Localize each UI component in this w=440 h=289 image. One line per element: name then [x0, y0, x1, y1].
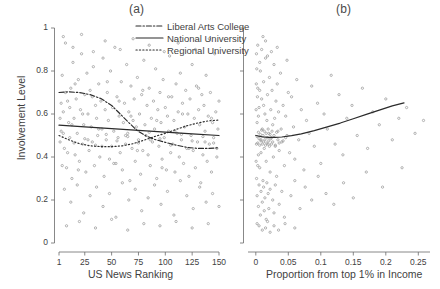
- scatter-point: [218, 205, 220, 207]
- scatter-point: [94, 104, 96, 106]
- scatter-point: [157, 109, 159, 111]
- scatter-point: [259, 144, 261, 146]
- scatter-point: [365, 171, 367, 173]
- scatter-point: [206, 160, 208, 162]
- panel-b-x-axis-title: Proportion from top 1% in Income: [266, 268, 422, 280]
- scatter-point: [261, 201, 263, 203]
- scatter-point: [366, 147, 368, 149]
- scatter-point: [205, 74, 207, 76]
- scatter-point: [118, 115, 120, 117]
- fitted-curves-layer: [59, 92, 404, 149]
- scatter-point: [286, 59, 288, 61]
- scatter-point: [264, 139, 266, 141]
- scatter-point: [414, 132, 416, 134]
- scatter-point: [66, 100, 68, 102]
- scatter-point: [287, 91, 289, 93]
- scatter-point: [81, 113, 83, 115]
- curve-liberal-arts-college: [59, 92, 219, 149]
- scatter-point: [263, 147, 265, 149]
- scatter-point: [118, 100, 120, 102]
- scatter-point: [173, 214, 175, 216]
- scatter-point: [70, 201, 72, 203]
- x-tick-label-a-6: 150: [199, 257, 239, 267]
- scatter-point: [300, 109, 302, 111]
- scatter-point: [166, 190, 168, 192]
- scatter-point: [259, 133, 261, 135]
- scatter-point: [352, 197, 354, 199]
- scatter-point: [187, 113, 189, 115]
- scatter-point: [63, 147, 65, 149]
- scatter-point: [93, 164, 95, 166]
- scatter-point: [255, 177, 257, 179]
- scatter-point: [259, 89, 261, 91]
- scatter-point: [182, 162, 184, 164]
- scatter-point: [132, 38, 134, 40]
- scatter-point: [212, 137, 214, 139]
- scatter-point: [192, 149, 194, 151]
- scatter-point: [143, 223, 145, 225]
- scatter-point: [62, 111, 64, 113]
- scatter-point: [62, 35, 64, 37]
- y-tick-label-1: 0.2: [8, 194, 48, 204]
- scatter-point: [142, 149, 144, 151]
- scatter-point: [141, 94, 143, 96]
- scatter-point: [267, 128, 269, 130]
- scatter-point: [100, 100, 102, 102]
- scatter-point: [422, 119, 424, 121]
- scatter-point: [167, 96, 169, 98]
- scatter-point: [86, 72, 88, 74]
- scatter-point: [102, 57, 104, 59]
- scatter-point: [269, 188, 271, 190]
- scatter-point: [272, 199, 274, 201]
- scatter-point: [164, 106, 166, 108]
- scatter-point: [258, 184, 260, 186]
- scatter-point: [265, 160, 267, 162]
- scatter-point: [211, 192, 213, 194]
- scatter-point: [215, 111, 217, 113]
- scatter-point: [158, 145, 160, 147]
- figure-container: (a) (b) Involvement Level US News Rankin…: [0, 0, 440, 289]
- scatter-point: [266, 55, 268, 57]
- scatter-point: [76, 132, 78, 134]
- scatter-point: [95, 186, 97, 188]
- scatter-point: [60, 130, 62, 132]
- scatter-point: [98, 83, 100, 85]
- scatter-point: [256, 121, 258, 123]
- scatter-point: [275, 175, 277, 177]
- scatter-point: [91, 141, 93, 143]
- scatter-point: [73, 117, 75, 119]
- scatter-point: [256, 68, 258, 70]
- scatter-point: [264, 197, 266, 199]
- scatter-point: [342, 182, 344, 184]
- scatter-point: [270, 109, 272, 111]
- scatter-point: [70, 87, 72, 89]
- scatter-point: [256, 223, 258, 225]
- scatter-point: [77, 169, 79, 171]
- scatter-point: [95, 117, 97, 119]
- scatter-point: [207, 115, 209, 117]
- scatter-point: [255, 160, 257, 162]
- scatter-point: [277, 139, 279, 141]
- scatter-point: [303, 169, 305, 171]
- scatter-point: [61, 164, 63, 166]
- scatter-point: [188, 175, 190, 177]
- scatter-point: [147, 197, 149, 199]
- scatter-point: [104, 40, 106, 42]
- scatter-point: [174, 171, 176, 173]
- scatter-point: [283, 216, 285, 218]
- scatter-point: [143, 59, 145, 61]
- scatter-point: [385, 98, 387, 100]
- scatter-point: [279, 72, 281, 74]
- scatter-point: [130, 85, 132, 87]
- scatter-point: [196, 141, 198, 143]
- scatter-point: [97, 134, 99, 136]
- scatter-point: [311, 85, 313, 87]
- scatter-point: [116, 140, 118, 142]
- scatter-point: [194, 167, 196, 169]
- scatter-point: [282, 104, 284, 106]
- scatter-point: [258, 106, 260, 108]
- scatter-point: [85, 171, 87, 173]
- scatter-point: [136, 76, 138, 78]
- scatter-point: [274, 184, 276, 186]
- scatter-point: [160, 203, 162, 205]
